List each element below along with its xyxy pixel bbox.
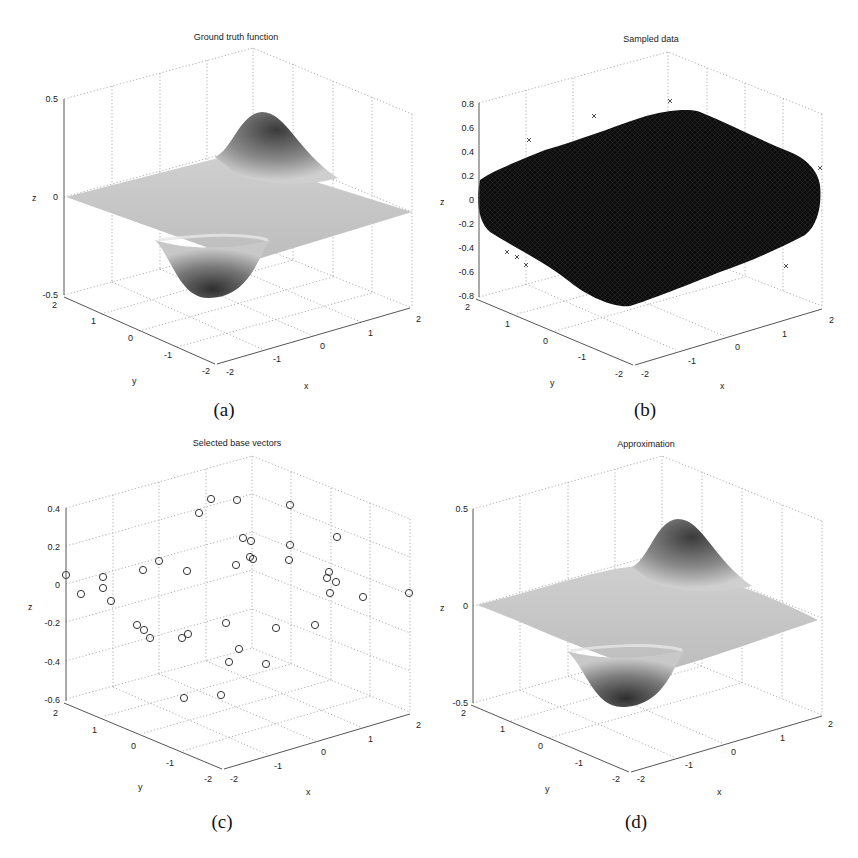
panel-d-ylabel: y xyxy=(545,784,550,794)
panel-c-title: Selected base vectors xyxy=(193,438,282,448)
panel-d-xtick: 1 xyxy=(780,733,785,743)
base-vector-marker xyxy=(262,660,269,667)
panel-d-ytick: 0 xyxy=(538,741,543,751)
base-vector-marker xyxy=(326,589,333,596)
panel-b-xtick: -2 xyxy=(641,369,649,379)
panel-d-zlabel: z xyxy=(440,603,445,613)
panel-a-xtick: -2 xyxy=(226,367,234,377)
base-vector-marker xyxy=(332,578,339,585)
panel-b-ztick: -0.4 xyxy=(458,243,474,253)
panel-a-zlabel: z xyxy=(32,193,37,203)
panel-d-xtick: -2 xyxy=(637,774,645,784)
panel-d-xlabel: x xyxy=(717,787,722,797)
panel-b-scatter xyxy=(478,99,822,306)
base-vector-marker xyxy=(133,621,140,628)
panel-a-caption: (a) xyxy=(213,399,234,421)
panel-b-ztick: -0.6 xyxy=(458,267,474,277)
panel-a-xtick: 0 xyxy=(320,341,325,351)
panel-c-ztick: 0 xyxy=(55,580,60,590)
base-vector-marker xyxy=(139,566,146,573)
base-vector-marker xyxy=(146,634,153,641)
panel-b-xtick: -1 xyxy=(688,356,696,366)
panel-a-xtick: -1 xyxy=(273,354,281,364)
panel-d-ytick: 1 xyxy=(500,724,505,734)
base-vector-marker xyxy=(333,533,340,540)
panel-d-ytick: 2 xyxy=(461,708,466,718)
panel-c-ytick: -2 xyxy=(204,774,212,784)
panel-c-xtick: 2 xyxy=(416,720,421,730)
panel-a: Ground truth function xyxy=(32,32,421,421)
panel-c-ztick: 0.2 xyxy=(47,542,60,552)
panel-d-xtick: 2 xyxy=(828,719,833,729)
panel-b-ztick: -0.8 xyxy=(458,291,474,301)
panel-b-zlabel: z xyxy=(440,197,445,207)
panel-c-ztick: 0.4 xyxy=(47,504,60,514)
panel-c-xtick: 0 xyxy=(321,747,326,757)
base-vector-marker xyxy=(285,556,292,563)
base-vector-marker xyxy=(184,630,191,637)
base-vector-marker xyxy=(195,509,202,516)
panel-b: Sampled data xyxy=(440,34,834,421)
panel-c-ytick: 1 xyxy=(92,725,97,735)
base-vector-marker xyxy=(77,590,84,597)
panel-c-grid xyxy=(66,456,410,755)
panel-c: Selected base vectors xyxy=(28,438,421,833)
panel-d-ztick: -0.5 xyxy=(452,698,468,708)
base-vector-marker xyxy=(140,626,147,633)
panel-b-ylabel: y xyxy=(550,378,555,388)
panel-a-ytick: -1 xyxy=(164,350,172,360)
panel-c-ylabel: y xyxy=(138,782,143,792)
base-vector-marker xyxy=(222,619,229,626)
panel-d-ztick: 0 xyxy=(463,601,468,611)
panel-c-xlabel: x xyxy=(306,787,311,797)
panel-a-ylabel: y xyxy=(132,376,137,386)
panel-a-ytick: 1 xyxy=(91,316,96,326)
panel-b-xtick: 1 xyxy=(782,329,787,339)
panel-c-xtick: -1 xyxy=(274,761,282,771)
panel-a-xtick: 2 xyxy=(416,314,421,324)
base-vector-marker xyxy=(239,534,246,541)
panel-b-ztick: 0 xyxy=(469,195,474,205)
panel-d-ytick: -2 xyxy=(612,774,620,784)
panel-b-ytick: 2 xyxy=(465,302,470,312)
base-vector-marker xyxy=(359,593,366,600)
base-vector-marker xyxy=(225,658,232,665)
figure-canvas: Ground truth function xyxy=(0,0,858,858)
base-vector-marker xyxy=(99,584,106,591)
base-vector-marker xyxy=(107,597,114,604)
panel-a-ztick: 0.5 xyxy=(45,94,58,104)
panel-a-ztick: 0 xyxy=(53,192,58,202)
panel-b-ytick: -2 xyxy=(615,369,623,379)
panel-c-ztick: -0.2 xyxy=(44,618,60,628)
panel-b-ztick: 0.2 xyxy=(461,171,474,181)
panel-c-points xyxy=(62,495,412,701)
base-vector-marker xyxy=(217,691,224,698)
base-vector-marker xyxy=(232,561,239,568)
base-vector-marker xyxy=(180,694,187,701)
panel-b-ztick: 0.6 xyxy=(461,123,474,133)
base-vector-marker xyxy=(272,624,279,631)
base-vector-marker xyxy=(405,589,412,596)
base-vector-marker xyxy=(183,567,190,574)
panel-b-xtick: 2 xyxy=(829,315,834,325)
panel-c-ytick: -1 xyxy=(166,758,174,768)
panel-c-ztick: -0.6 xyxy=(44,695,60,705)
panel-c-ytick: 2 xyxy=(53,708,58,718)
panel-a-xlabel: x xyxy=(304,381,309,391)
panel-a-ytick: 0 xyxy=(128,333,133,343)
panel-c-caption: (c) xyxy=(211,811,232,833)
panel-b-xlabel: x xyxy=(720,381,725,391)
base-vector-marker xyxy=(207,495,214,502)
panel-d-ztick: 0.5 xyxy=(455,504,468,514)
panel-b-ytick: -1 xyxy=(578,352,586,362)
base-vector-marker xyxy=(233,496,240,503)
panel-d-title: Approximation xyxy=(617,439,675,449)
panel-b-caption: (b) xyxy=(634,399,656,421)
panel-a-title: Ground truth function xyxy=(194,32,279,42)
panel-c-xtick: -2 xyxy=(230,774,238,784)
panel-d-xtick: 0 xyxy=(731,747,736,757)
panel-c-axes xyxy=(64,508,410,769)
panel-a-ztick: -0.5 xyxy=(42,290,58,300)
panel-b-ztick: 0.8 xyxy=(461,99,474,109)
panel-a-surface xyxy=(66,112,412,298)
